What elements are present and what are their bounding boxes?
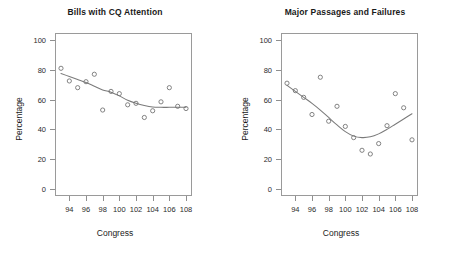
panel-title: Major Passages and Failures [230, 7, 460, 17]
data-point [285, 81, 289, 85]
x-tick-mark [153, 196, 154, 201]
x-tick-label: 106 [163, 205, 176, 214]
x-tick-label: 108 [180, 205, 193, 214]
x-tick-mark [186, 196, 187, 201]
x-tick-mark [312, 196, 313, 201]
y-axis: 020406080100 [0, 33, 55, 196]
data-point [368, 152, 372, 156]
data-point [402, 106, 406, 110]
y-axis-title: Percentage [240, 74, 250, 164]
x-tick-label: 94 [291, 205, 299, 214]
y-tick-label: 100 [259, 35, 272, 44]
x-tick-label: 108 [406, 205, 419, 214]
panel-bills-cq-attention: Bills with CQ Attention 020406080100 949… [0, 0, 230, 253]
x-tick-label: 104 [372, 205, 385, 214]
data-point [335, 104, 339, 108]
x-tick-mark [295, 196, 296, 201]
data-point [393, 92, 397, 96]
y-tick-label: 0 [268, 185, 272, 194]
x-tick-mark [412, 196, 413, 201]
x-tick-label: 96 [308, 205, 316, 214]
x-axis-title: Congress [0, 228, 230, 238]
plot-surface [282, 34, 417, 195]
data-point [343, 124, 347, 128]
plot-surface [56, 34, 191, 195]
x-tick-mark [69, 196, 70, 201]
x-tick-label: 100 [113, 205, 126, 214]
x-tick-label: 94 [65, 205, 73, 214]
data-point [377, 141, 381, 145]
y-tick-label: 40 [38, 125, 46, 134]
y-tick-label: 40 [264, 125, 272, 134]
y-axis-title: Percentage [14, 74, 24, 164]
data-point [167, 86, 171, 90]
y-tick-label: 20 [38, 155, 46, 164]
panel-title: Bills with CQ Attention [0, 7, 230, 17]
y-tick-label: 0 [42, 185, 46, 194]
y-tick-label: 80 [38, 65, 46, 74]
x-tick-label: 100 [339, 205, 352, 214]
data-layer [282, 34, 417, 195]
x-tick-label: 106 [389, 205, 402, 214]
y-tick-label: 60 [264, 95, 272, 104]
x-tick-label: 102 [356, 205, 369, 214]
data-point [117, 92, 121, 96]
y-axis: 020406080100 [230, 33, 281, 196]
y-tick-label: 60 [38, 95, 46, 104]
data-layer [56, 34, 191, 195]
x-tick-label: 98 [324, 205, 332, 214]
data-point [360, 148, 364, 152]
x-tick-label: 102 [130, 205, 143, 214]
x-tick-mark [119, 196, 120, 201]
data-point [101, 108, 105, 112]
x-tick-mark [395, 196, 396, 201]
data-point [67, 79, 71, 83]
figure-root: Bills with CQ Attention 020406080100 949… [0, 0, 460, 253]
data-point [76, 86, 80, 90]
x-tick-mark [345, 196, 346, 201]
data-point [410, 138, 414, 142]
y-tick-label: 20 [264, 155, 272, 164]
loess-fit-line [61, 74, 186, 108]
data-point [318, 75, 322, 79]
x-tick-mark [169, 196, 170, 201]
x-tick-mark [86, 196, 87, 201]
data-point [159, 100, 163, 104]
plot-area [55, 33, 192, 196]
data-point [385, 124, 389, 128]
x-tick-mark [329, 196, 330, 201]
panel-major-passages-failures: Major Passages and Failures 020406080100… [230, 0, 460, 253]
x-tick-mark [136, 196, 137, 201]
data-point [310, 112, 314, 116]
data-point [92, 72, 96, 76]
y-tick-label: 100 [33, 35, 46, 44]
x-tick-label: 104 [146, 205, 159, 214]
data-point [151, 109, 155, 113]
x-tick-mark [379, 196, 380, 201]
data-point [59, 66, 63, 70]
x-axis-title: Congress [226, 228, 456, 238]
y-tick-label: 80 [264, 65, 272, 74]
data-point [126, 103, 130, 107]
data-point [142, 115, 146, 119]
x-tick-mark [362, 196, 363, 201]
x-tick-mark [103, 196, 104, 201]
x-tick-label: 98 [98, 205, 106, 214]
plot-area [281, 33, 418, 196]
data-point [327, 119, 331, 123]
x-tick-label: 96 [82, 205, 90, 214]
